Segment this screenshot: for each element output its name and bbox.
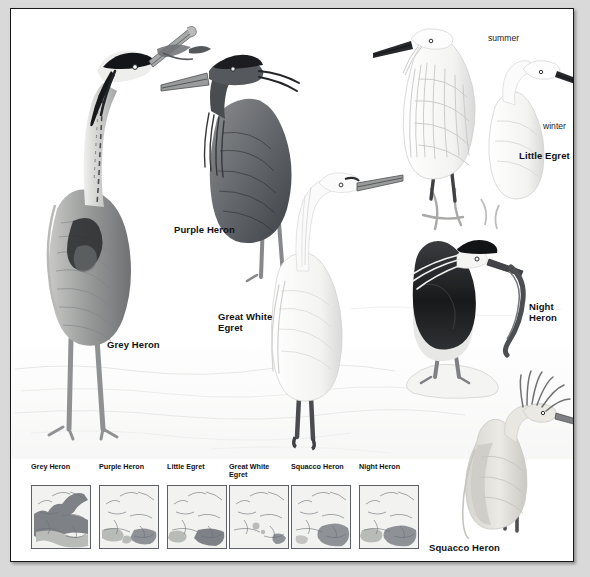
map-little-egret [167, 485, 227, 549]
label-grey-heron: Grey Heron [107, 339, 160, 350]
map-purple-heron [99, 485, 159, 549]
label-night-heron: Night Heron [529, 301, 557, 323]
label-purple-heron: Purple Heron [174, 224, 235, 235]
illustration-plate: Grey Heron Purple Heron Great White Egre… [10, 8, 574, 562]
map-title-purple-heron: Purple Heron [99, 463, 144, 471]
map-title-great-white-egret: Great White Egret [229, 463, 269, 480]
label-little-egret: Little Egret [519, 150, 570, 161]
annotation-winter: winter [543, 121, 566, 131]
bird-purple-heron [157, 44, 299, 281]
map-squacco-heron [291, 485, 351, 549]
map-night-heron [359, 485, 419, 549]
bird-little-egret-summer [373, 29, 499, 229]
map-grey-heron [31, 485, 91, 549]
map-great-white-egret [229, 485, 289, 549]
label-great-white-egret: Great White Egret [218, 311, 272, 333]
label-squacco-heron: Squacco Heron [429, 542, 500, 553]
annotation-summer: summer [488, 33, 519, 43]
distribution-map-strip: Grey Heron Purple Heron [19, 461, 419, 553]
map-title-grey-heron: Grey Heron [31, 463, 70, 471]
map-title-night-heron: Night Heron [359, 463, 400, 471]
map-title-squacco-heron: Squacco Heron [291, 463, 344, 471]
map-title-little-egret: Little Egret [167, 463, 205, 471]
